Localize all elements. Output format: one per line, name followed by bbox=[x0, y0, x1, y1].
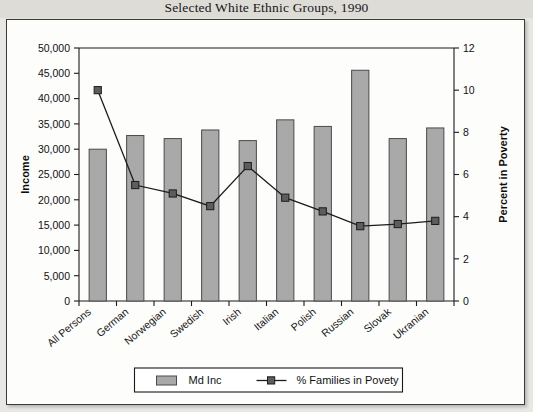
left-axis-tick-label: 10,000 bbox=[38, 244, 70, 256]
category-label-swedish: Swedish bbox=[167, 305, 205, 340]
right-axis-tick-label: 0 bbox=[463, 295, 469, 307]
category-label-italian: Italian bbox=[251, 305, 280, 332]
category-label-slovak: Slovak bbox=[361, 305, 393, 335]
left-axis-tick-label: 25,000 bbox=[38, 168, 70, 180]
right-axis-tick-label: 10 bbox=[463, 84, 475, 96]
page-title: Selected White Ethnic Groups, 1990 bbox=[0, 0, 533, 16]
poverty-marker-italian bbox=[282, 194, 289, 201]
left-axis-tick-label: 35,000 bbox=[38, 118, 70, 130]
poverty-marker-polish bbox=[319, 208, 326, 215]
poverty-marker-all-persons bbox=[94, 87, 101, 94]
poverty-marker-swedish bbox=[207, 203, 214, 210]
bar-swedish bbox=[202, 130, 219, 301]
left-axis-tick-label: 5,000 bbox=[44, 270, 70, 282]
bar-all-persons bbox=[89, 149, 106, 301]
legend-bar-swatch bbox=[157, 376, 177, 385]
left-axis-tick-label: 50,000 bbox=[38, 42, 70, 54]
bar-norwegian bbox=[164, 139, 181, 301]
bar-slovak bbox=[389, 139, 406, 301]
left-axis-tick-label: 15,000 bbox=[38, 219, 70, 231]
legend-bar-label: Md Inc bbox=[189, 374, 223, 386]
chart-frame: 05,00010,00015,00020,00025,00030,00035,0… bbox=[6, 19, 525, 405]
chart-plot-area: 05,00010,00015,00020,00025,00030,00035,0… bbox=[7, 20, 524, 404]
screenshot-page: Selected White Ethnic Groups, 1990 05,00… bbox=[0, 0, 533, 412]
poverty-line bbox=[98, 90, 436, 226]
right-axis-title: Percent in Poverty bbox=[497, 125, 509, 222]
left-axis-tick-label: 0 bbox=[64, 295, 70, 307]
category-label-norwegian: Norwegian bbox=[122, 305, 168, 347]
left-axis-tick-label: 40,000 bbox=[38, 92, 70, 104]
left-axis-tick-label: 45,000 bbox=[38, 67, 70, 79]
right-axis-tick-label: 2 bbox=[463, 253, 469, 265]
poverty-marker-irish bbox=[244, 162, 251, 169]
right-axis-tick-label: 6 bbox=[463, 168, 469, 180]
poverty-marker-ukranian bbox=[432, 217, 439, 224]
bar-german bbox=[127, 136, 144, 301]
right-axis-tick-label: 12 bbox=[463, 42, 475, 54]
bar-russian bbox=[352, 70, 369, 301]
combo-chart: 05,00010,00015,00020,00025,00030,00035,0… bbox=[7, 20, 526, 406]
poverty-marker-russian bbox=[357, 223, 364, 230]
category-label-polish: Polish bbox=[288, 305, 318, 333]
category-label-all-persons: All Persons bbox=[45, 305, 93, 348]
legend-line-label: % Families in Povety bbox=[297, 374, 400, 386]
poverty-marker-norwegian bbox=[169, 190, 176, 197]
poverty-marker-german bbox=[132, 181, 139, 188]
bar-ukranian bbox=[427, 128, 444, 301]
left-axis-tick-label: 20,000 bbox=[38, 194, 70, 206]
poverty-marker-slovak bbox=[394, 220, 401, 227]
category-label-russian: Russian bbox=[319, 305, 356, 339]
bar-italian bbox=[277, 120, 294, 301]
left-axis-tick-label: 30,000 bbox=[38, 143, 70, 155]
category-label-ukranian: Ukranian bbox=[391, 305, 431, 341]
legend-line-marker bbox=[268, 377, 275, 384]
category-label-irish: Irish bbox=[220, 305, 243, 327]
right-axis-tick-label: 8 bbox=[463, 126, 469, 138]
right-axis-tick-label: 4 bbox=[463, 210, 469, 222]
left-axis-title: Income bbox=[19, 155, 31, 194]
